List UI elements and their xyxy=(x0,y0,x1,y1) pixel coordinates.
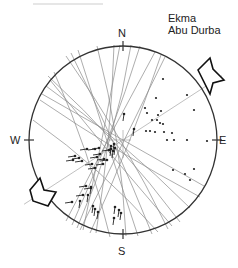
lineation-point xyxy=(98,147,101,150)
pole-point xyxy=(186,139,188,141)
pole-point xyxy=(172,169,174,171)
pole-point xyxy=(173,139,175,141)
lineation-point xyxy=(102,163,105,166)
pole-point xyxy=(166,139,168,141)
pole-point xyxy=(171,132,173,134)
east-label: E xyxy=(219,135,226,146)
pole-point xyxy=(145,130,147,132)
lineation-point xyxy=(72,159,75,162)
poles xyxy=(144,78,208,181)
lineation-point xyxy=(90,186,93,189)
lineation-point xyxy=(92,205,95,208)
lineation-point xyxy=(123,113,126,116)
great-circle xyxy=(80,57,165,230)
stereonet xyxy=(0,0,238,268)
lineation-point xyxy=(81,160,84,163)
lineation-point xyxy=(110,148,113,151)
lineation-point xyxy=(113,217,116,220)
lineation-point xyxy=(87,194,90,197)
lineation-point xyxy=(112,150,115,153)
lineation-point xyxy=(71,201,74,204)
lineation-point xyxy=(94,208,97,211)
lineation-point xyxy=(85,185,88,188)
pole-point xyxy=(162,78,164,80)
lineation-point xyxy=(86,148,89,151)
pole-point xyxy=(154,131,156,133)
pole-point xyxy=(163,131,165,133)
pole-point xyxy=(155,97,157,99)
pole-point xyxy=(184,173,186,175)
lineation-point xyxy=(113,143,116,146)
lineation-point xyxy=(79,200,82,203)
great-circle xyxy=(33,120,158,232)
lineation-point xyxy=(118,209,121,212)
pole-point xyxy=(159,122,161,124)
south-label: S xyxy=(118,246,125,257)
pole-point xyxy=(193,109,195,111)
pole-point xyxy=(189,179,191,181)
pole-point xyxy=(162,123,164,125)
west-label: W xyxy=(10,135,20,146)
lineation-point xyxy=(78,157,81,160)
lineation-point xyxy=(106,159,109,162)
lineation-point xyxy=(74,155,77,158)
lineation-point xyxy=(114,147,117,150)
pole-point xyxy=(186,94,188,96)
pole-point xyxy=(160,110,162,112)
pole-point xyxy=(157,114,159,116)
pole-point xyxy=(156,119,158,121)
lineation-point xyxy=(82,194,85,197)
pole-point xyxy=(206,140,208,142)
pole-point xyxy=(146,112,148,114)
pole-point xyxy=(193,168,195,170)
lineation-point xyxy=(96,156,99,159)
lineation-point xyxy=(91,163,94,166)
great-circle xyxy=(48,76,180,222)
pole-point xyxy=(144,107,146,109)
lineation-point xyxy=(99,153,102,156)
pole-point xyxy=(149,130,151,132)
north-label: N xyxy=(118,28,126,39)
great-circle xyxy=(83,45,120,230)
lineation-point xyxy=(110,145,113,148)
lineation-point xyxy=(94,167,97,170)
lineation-point xyxy=(120,212,123,215)
lineation-point xyxy=(133,128,136,131)
lineation-point xyxy=(97,211,100,214)
lineation-point xyxy=(114,206,117,209)
pole-point xyxy=(151,119,153,121)
great-circle xyxy=(42,94,204,186)
